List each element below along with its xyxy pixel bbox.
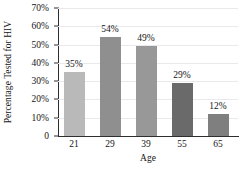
y-axis-title: Percentage Tested for HIV	[0, 0, 16, 143]
bar	[172, 83, 193, 136]
y-tick-label: 40%	[32, 58, 49, 68]
x-tick-label: 65	[213, 139, 223, 149]
y-axis-title-text: Percentage Tested for HIV	[3, 20, 13, 123]
gridline	[58, 8, 238, 9]
x-tick-label: 21	[69, 139, 79, 149]
x-axis-line	[58, 136, 239, 137]
y-tick-label: 50%	[32, 40, 49, 50]
gridline	[58, 26, 238, 27]
bar	[64, 72, 85, 136]
bar-value-label: 29%	[173, 70, 190, 80]
y-tick-label: 0	[44, 131, 49, 141]
bar	[136, 46, 157, 136]
bar	[208, 114, 229, 136]
bar-value-label: 54%	[101, 24, 118, 34]
bar	[100, 37, 121, 136]
gridline	[58, 45, 238, 46]
x-tick-label: 55	[177, 139, 187, 149]
y-tick-label: 20%	[32, 94, 49, 104]
y-tick-label: 30%	[32, 76, 49, 86]
bar-chart: Percentage Tested for HIV 010%20%30%40%5…	[0, 0, 242, 171]
x-tick-label: 39	[141, 139, 151, 149]
x-axis-title: Age	[58, 153, 238, 163]
y-tick-label: 10%	[32, 113, 49, 123]
y-tick-label: 60%	[32, 21, 49, 31]
bar-value-label: 12%	[209, 101, 226, 111]
x-axis-tick-labels: 2129395565	[58, 139, 238, 153]
y-axis-tick-labels: 010%20%30%40%50%60%70%	[16, 8, 52, 136]
bar-value-label: 35%	[65, 59, 82, 69]
bar-value-label: 49%	[137, 33, 154, 43]
plot-area: 35%54%49%29%12%	[58, 8, 238, 136]
y-tick-label: 70%	[32, 3, 49, 13]
x-tick-label: 29	[105, 139, 115, 149]
